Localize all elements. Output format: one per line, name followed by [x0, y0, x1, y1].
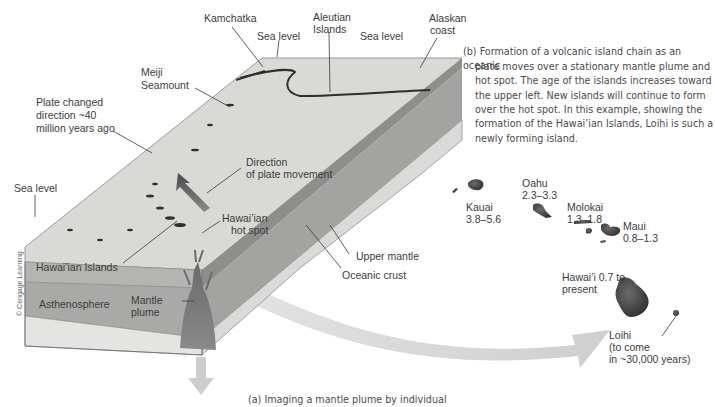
island-lanai [586, 228, 592, 234]
credit-cengage: © Cengage Learning [16, 251, 23, 316]
label-meiji-1: Meiji [141, 66, 163, 78]
island-label-loihi-age: (to come [609, 341, 650, 353]
island-label-maui-age: 0.8–1.3 [623, 232, 658, 244]
caption-b-line-2: plate moves over a stationary mantle plu… [475, 60, 710, 74]
label-mantle-plume-2: plume [131, 306, 160, 318]
island-label-kauai-age: 3.8–5.6 [466, 213, 501, 225]
island-niihau [452, 188, 458, 193]
label-mantle-plume-1: Mantle [131, 294, 163, 306]
label-plate-changed-1: Plate changed [36, 96, 103, 108]
island-label-molokai-age: 1.3–1.8 [567, 213, 602, 225]
label-hawaiian-islands: Hawai’ian Islands [36, 261, 118, 273]
label-direction-2: of plate movement [246, 168, 332, 180]
island-maui [601, 224, 620, 236]
island-label-hawaii-name: Hawai’i 0.7 to [562, 271, 625, 283]
label-hotspot-2: hot spot [231, 224, 268, 236]
label-sea-level-top-left: Sea level [257, 30, 300, 42]
caption-b-line-6: formation of the Hawai’ian Islands, Loih… [475, 117, 713, 131]
caption-b-line-7: newly forming island. [475, 132, 578, 146]
caption-b-line-5: over the hot spot. In this example, show… [475, 103, 702, 117]
island-label-maui-name: Maui [623, 220, 646, 232]
label-kamchatka: Kamchatka [204, 12, 257, 24]
island-label-loihi-note: in ~30,000 years) [609, 353, 690, 365]
label-sea-level-top-right: Sea level [360, 30, 403, 42]
caption-a-partial: (a) Imaging a mantle plume by individual [248, 393, 447, 407]
label-asthenosphere: Asthenosphere [39, 298, 110, 310]
island-label-molokai-name: Molokai [567, 201, 603, 213]
caption-b-line-3: hot spot. The age of the islands increas… [475, 74, 712, 88]
caption-b-line-4: the upper left. New islands will continu… [475, 89, 706, 103]
island-label-kauai-name: Kauai [466, 201, 493, 213]
label-meiji-2: Seamount [141, 79, 189, 91]
island-kauai [468, 179, 484, 190]
island-oahu [533, 204, 552, 218]
island-label-hawaii-age: present [562, 283, 597, 295]
label-hotspot-1: Hawai’ian [222, 212, 268, 224]
island-label-oahu-age: 2.3–3.3 [522, 189, 557, 201]
island-hawaii [616, 277, 649, 317]
down-arrow [188, 357, 214, 395]
label-aleutian-1: Aleutian [313, 11, 351, 23]
island-label-oahu-name: Oahu [522, 177, 548, 189]
label-alaskan-2: coast [430, 24, 455, 36]
island-label-loihi-name: Loihi [609, 329, 631, 341]
label-alaskan-1: Alaskan [429, 12, 466, 24]
island-loihi [673, 310, 679, 316]
label-aleutian-2: Islands [313, 23, 346, 35]
hawaiian-islands-map [452, 179, 679, 317]
island-kahoolawe [600, 240, 606, 243]
label-plate-changed-2: direction ~40 [36, 109, 96, 121]
label-upper-mantle: Upper mantle [356, 250, 419, 262]
label-direction-1: Direction [246, 156, 287, 168]
label-oceanic-crust: Oceanic crust [342, 269, 406, 281]
label-sea-level-left: Sea level [14, 182, 57, 194]
label-plate-changed-3: million years ago [36, 122, 115, 134]
